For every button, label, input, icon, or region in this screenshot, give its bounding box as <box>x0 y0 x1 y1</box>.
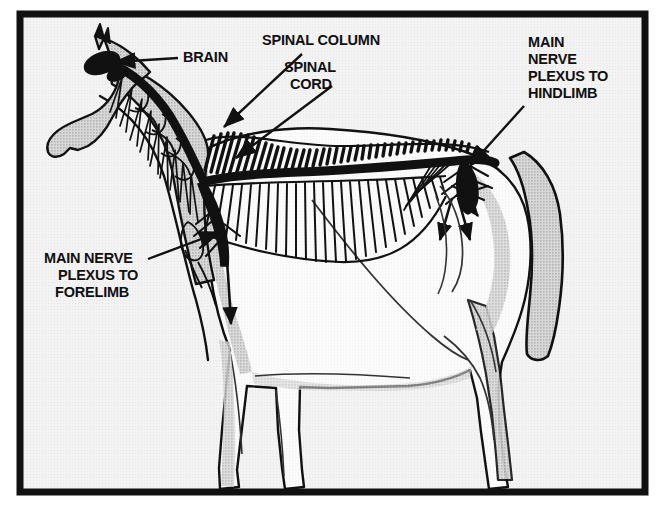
forelimb-label-line1: MAIN NERVE <box>44 250 133 266</box>
label-main-nerve-plexus-forelimb: MAIN NERVE PLEXUS TO FORELIMB <box>44 250 138 300</box>
forelimb-label-line2: PLEXUS TO <box>58 267 138 283</box>
spinal-cord-label-line1: SPINAL <box>284 59 336 75</box>
brain-label-text: BRAIN <box>183 49 228 65</box>
forelimb-label-line3: FORELIMB <box>55 284 129 300</box>
diagram-canvas: BRAIN SPINAL COLUMN SPINAL CORD MAIN NER… <box>0 0 658 507</box>
spinal-column-label-text: SPINAL COLUMN <box>262 32 380 48</box>
label-spinal-cord: SPINAL CORD <box>284 59 336 92</box>
spinal-cord-label-line2: CORD <box>290 76 332 92</box>
hindlimb-label-line2: NERVE <box>528 51 577 67</box>
label-brain: BRAIN <box>183 49 228 65</box>
label-spinal-column: SPINAL COLUMN <box>262 32 380 48</box>
hindlimb-label-line1: MAIN <box>528 34 564 50</box>
hindlimb-label-line3: PLEXUS TO <box>528 68 608 84</box>
horse-nervous-system-diagram: BRAIN SPINAL COLUMN SPINAL CORD MAIN NER… <box>0 0 658 507</box>
hindlimb-label-line4: HINDLIMB <box>528 85 597 101</box>
